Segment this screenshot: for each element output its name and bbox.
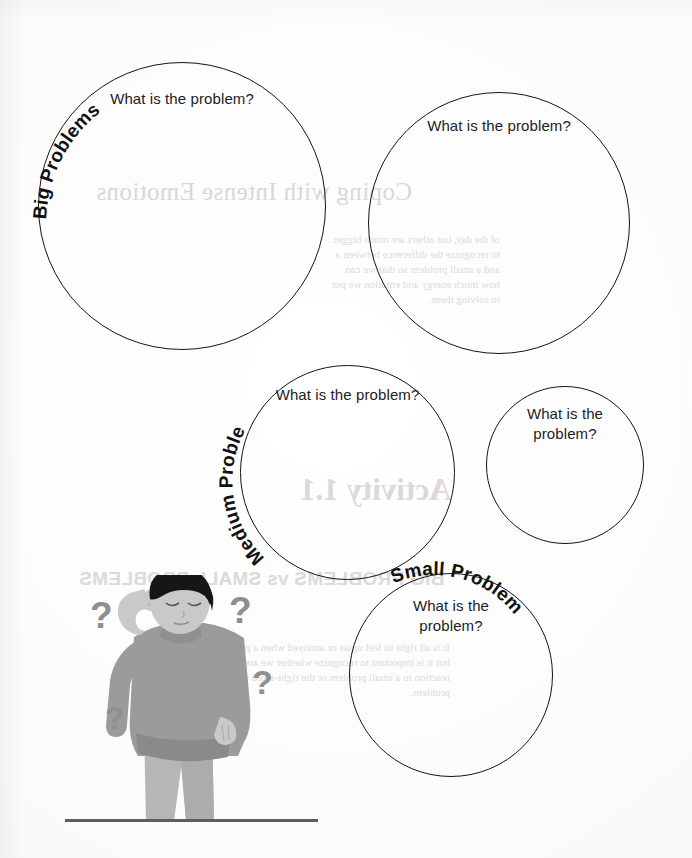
- circle-prompt-wrapper: What is the problem?: [369, 93, 629, 353]
- circle-prompt-text: What is the problem?: [276, 385, 420, 579]
- circle-prompt-wrapper: What is the problem?: [39, 63, 325, 349]
- problem-circle-big-2[interactable]: What is the problem?: [368, 92, 630, 354]
- problem-circle-big-1[interactable]: What is the problem?: [38, 62, 326, 350]
- circle-prompt-wrapper: What is the problem?: [487, 387, 643, 543]
- question-mark-icon: ?: [105, 700, 125, 737]
- circle-prompt-text: What is the problem?: [396, 596, 506, 776]
- ground-line: [65, 819, 318, 822]
- problem-circle-small-1[interactable]: What is the problem?: [349, 573, 553, 777]
- person-figure-graphic: [62, 575, 324, 830]
- circle-prompt-wrapper: What is the problem?: [350, 574, 552, 776]
- circle-prompt-wrapper: What is the problem?: [241, 366, 454, 579]
- worksheet-page: Coping with Intense Emotions of the day,…: [0, 0, 692, 858]
- problem-circle-medium-2[interactable]: What is the problem?: [486, 386, 644, 544]
- question-mark-icon: ?: [252, 663, 273, 702]
- question-mark-icon: ?: [90, 595, 113, 637]
- circle-prompt-text: What is the problem?: [517, 404, 613, 543]
- circle-prompt-text: What is the problem?: [110, 89, 254, 349]
- circle-prompt-text: What is the problem?: [427, 116, 571, 353]
- problem-circle-medium-1[interactable]: What is the problem?: [240, 365, 455, 580]
- confused-person-illustration: ? ? ? ?: [62, 575, 324, 830]
- question-mark-icon: ?: [229, 590, 252, 632]
